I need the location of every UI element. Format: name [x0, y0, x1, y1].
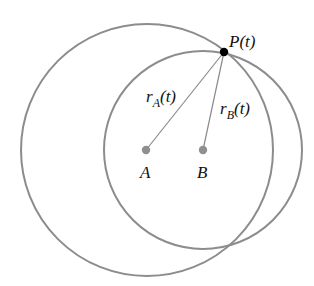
- label-rA-tail: (t): [160, 87, 176, 106]
- label-B: B: [197, 163, 208, 182]
- moving-point-P: [220, 48, 228, 56]
- label-P: P(t): [228, 32, 256, 51]
- center-dot-B: [199, 146, 207, 154]
- label-A: A: [139, 163, 151, 182]
- label-rB-tail: (t): [234, 99, 250, 118]
- diagram-svg: P(t) A B rA(t) rB(t): [0, 0, 314, 286]
- label-rB: rB(t): [220, 99, 250, 122]
- diagram-canvas: P(t) A B rA(t) rB(t): [0, 0, 314, 286]
- center-dot-A: [142, 146, 150, 154]
- label-rA: rA(t): [146, 87, 176, 110]
